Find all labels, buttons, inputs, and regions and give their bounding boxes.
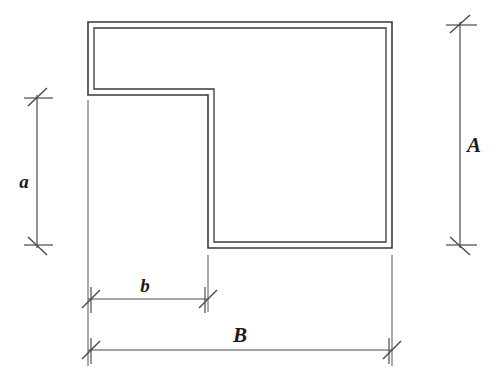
dimension-a-group: a xyxy=(19,88,53,255)
dimension-B-label: B xyxy=(232,323,247,347)
dimension-a-label: a xyxy=(19,171,29,192)
dimension-b-label: b xyxy=(140,275,150,296)
dimension-B-group: B xyxy=(82,323,401,364)
outer-profile-path xyxy=(88,22,392,248)
dimension-b-group: b xyxy=(82,275,217,313)
dimension-A-group: A xyxy=(446,15,481,255)
technical-drawing-canvas: A a b B xyxy=(0,0,504,384)
dimension-A-label: A xyxy=(465,133,481,157)
l-section-dimension-drawing: A a b B xyxy=(0,0,504,384)
part-outline-group xyxy=(88,22,392,248)
inner-profile-path xyxy=(94,28,386,242)
